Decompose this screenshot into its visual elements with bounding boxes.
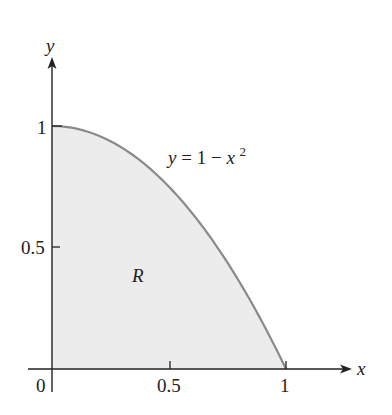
equation-exponent: 2 — [240, 144, 247, 159]
y-tick-label-0.5: 0.5 — [21, 237, 45, 258]
x-axis-label: x — [356, 358, 366, 379]
plot-canvas: 0 0.5 1 1 0.5 x y y = 1 − x 2 R — [0, 0, 392, 415]
y-axis-label: y — [44, 35, 55, 56]
curve-equation-label: y = 1 − x 2 — [166, 144, 246, 168]
x-tick-label-1: 1 — [280, 375, 290, 396]
y-tick-label-1: 1 — [37, 117, 47, 138]
region-label: R — [131, 265, 144, 286]
equation-operator: = 1 − — [181, 147, 221, 168]
figure: 0 0.5 1 1 0.5 x y y = 1 − x 2 R — [0, 0, 392, 415]
equation-lhs: y — [166, 147, 177, 168]
x-tick-label-0.5: 0.5 — [157, 375, 181, 396]
x-tick-label-0: 0 — [36, 375, 46, 396]
equation-var: x — [225, 147, 235, 168]
